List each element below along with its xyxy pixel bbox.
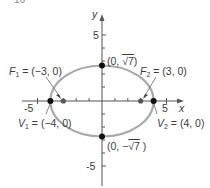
vertex-v1-point <box>47 98 53 104</box>
focus-f2-label: F2 = (3, 0) <box>140 66 187 78</box>
bottom-point-label: (0, −√7 ) <box>107 141 146 152</box>
vertex-v1-label: V1 = (−4, 0) <box>18 118 72 130</box>
x-tick-5: 5 <box>162 103 168 114</box>
vertex-v2-label: V2 = (4, 0) <box>157 118 204 130</box>
ellipse-diagram: 16 <box>0 0 210 188</box>
focus-f2-point <box>138 98 143 103</box>
minor-bottom-point <box>99 134 105 140</box>
minor-top-point <box>99 63 105 69</box>
x-tick-neg5: -5 <box>24 103 33 114</box>
focus-f1-point <box>61 98 66 103</box>
y-axis-label: y <box>92 9 97 20</box>
focus-f1-label: F1 = (−3, 0) <box>9 66 62 78</box>
x-axis <box>22 98 184 104</box>
x-axis-label: x <box>179 103 184 114</box>
y-tick-5: 5 <box>93 30 99 41</box>
y-tick-neg5: -5 <box>86 161 95 172</box>
y-axis <box>100 14 107 186</box>
top-point-label: (0, √7) <box>107 56 137 67</box>
graph-canvas <box>0 0 210 188</box>
vertex-v2-point <box>151 98 157 104</box>
